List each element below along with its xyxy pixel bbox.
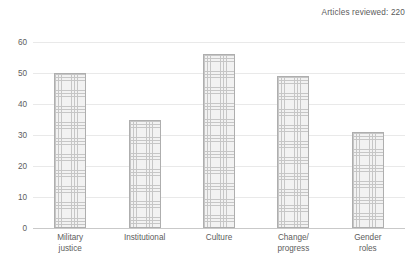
bar-slot	[182, 42, 256, 228]
bar-slot	[331, 42, 405, 228]
bar-slot	[107, 42, 181, 228]
bar[interactable]	[54, 73, 86, 228]
plot-area: 0102030405060	[33, 42, 405, 228]
bar-series	[33, 42, 405, 228]
bar[interactable]	[277, 76, 309, 228]
y-axis-tick-label: 60	[5, 38, 27, 47]
x-axis-category-label: Gender roles	[325, 233, 411, 254]
x-axis-category-label: Culture	[176, 233, 262, 244]
bar[interactable]	[203, 54, 235, 228]
bar-slot	[33, 42, 107, 228]
x-axis-category-label: Institutional	[102, 233, 188, 244]
articles-reviewed-annotation: Articles reviewed: 220	[322, 8, 405, 17]
y-axis-tick-label: 30	[5, 131, 27, 140]
bar[interactable]	[129, 120, 161, 229]
y-axis-tick-label: 0	[5, 224, 27, 233]
bar-chart-figure: Articles reviewed: 220 0102030405060 Mil…	[0, 0, 414, 265]
x-axis-category-label: Change/ progress	[250, 233, 336, 254]
y-axis-tick-label: 40	[5, 100, 27, 109]
x-axis-baseline	[33, 228, 405, 229]
x-axis-category-label: Military justice	[27, 233, 113, 254]
y-axis-tick-label: 20	[5, 162, 27, 171]
bar[interactable]	[352, 132, 384, 228]
y-axis-tick-label: 50	[5, 69, 27, 78]
y-axis-tick-label: 10	[5, 193, 27, 202]
bar-slot	[256, 42, 330, 228]
